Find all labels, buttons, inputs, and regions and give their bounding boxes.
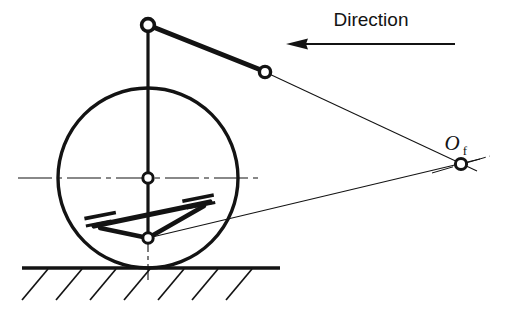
- ground-hatch-mark: [124, 269, 150, 300]
- bushing-pad-upper: [84, 213, 115, 219]
- direction-label: Direction: [334, 9, 409, 30]
- ground-group: [22, 268, 280, 300]
- direction-arrow: [286, 39, 455, 50]
- joints-group: [142, 19, 467, 244]
- ground-hatch-mark: [226, 269, 252, 300]
- ground-hatch-mark: [192, 269, 218, 300]
- wheel-center-joint: [143, 173, 153, 183]
- upper-arm-outer-joint: [259, 66, 270, 77]
- upper-strut-top-joint: [142, 19, 155, 32]
- ground-hatch-mark: [56, 269, 82, 300]
- pole-label: O: [444, 131, 459, 155]
- instant-centre-pole-joint: [455, 158, 466, 169]
- upper-projection-line: [265, 72, 477, 171]
- upper-control-arm: [148, 25, 266, 72]
- direction-arrow-head: [286, 39, 308, 50]
- ground-hatch-mark: [158, 269, 184, 300]
- centre-lines-group: [18, 156, 490, 284]
- strut-links-group: [148, 25, 266, 238]
- suspension-diagram-figure: Direction O f: [0, 0, 506, 313]
- construction-lines-group: [148, 72, 480, 238]
- diagram-canvas: Direction O f: [0, 0, 506, 313]
- ground-hatching: [22, 269, 252, 300]
- pole-subscript-label: f: [463, 143, 468, 158]
- ground-hatch-mark: [22, 269, 48, 300]
- lower-arm-forward-leg: [100, 228, 148, 238]
- ground-hatch-mark: [90, 269, 116, 300]
- lower-ball-joint: [143, 233, 153, 243]
